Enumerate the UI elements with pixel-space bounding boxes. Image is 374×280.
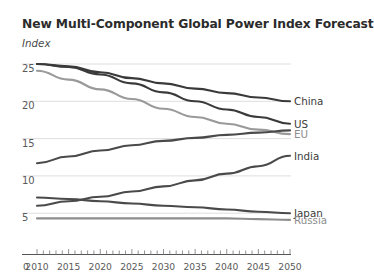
x-tick-label: 2015 <box>57 261 80 272</box>
x-tick-label: 2050 <box>278 261 301 272</box>
gridlines <box>22 64 291 213</box>
x-tick-label: 2025 <box>120 261 143 272</box>
series-line-russia <box>37 218 290 219</box>
x-tick-label: 2010 <box>25 261 48 272</box>
series-line-india <box>37 130 290 163</box>
x-tick-label: 2030 <box>152 261 175 272</box>
x-tick-label: 2035 <box>183 261 206 272</box>
series-line-eu <box>37 71 290 134</box>
series-line-china <box>37 64 290 101</box>
y-tick-label: 20 <box>22 100 35 111</box>
x-tick-label: 2020 <box>89 261 112 272</box>
series-line-us <box>37 64 290 124</box>
y-tick-label: 5 <box>22 212 28 223</box>
x-tick-label: 2040 <box>215 261 238 272</box>
x-tick-label: 2045 <box>247 261 270 272</box>
y-tick-label: 10 <box>22 175 35 186</box>
x-axis <box>22 249 291 255</box>
series-label-india: India <box>294 150 319 162</box>
y-tick-label: 25 <box>22 63 35 74</box>
y-tick-label: 15 <box>22 138 35 149</box>
series-label-china: China <box>294 95 323 107</box>
series-lines <box>37 64 290 220</box>
series-label-russia: Russia <box>294 214 327 226</box>
series-label-eu: EU <box>294 128 308 140</box>
